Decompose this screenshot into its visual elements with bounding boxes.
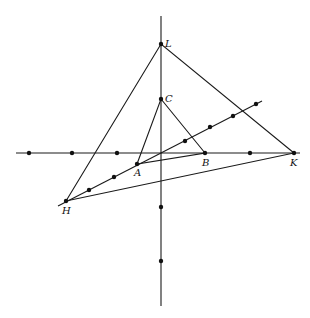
label-l: L — [164, 38, 172, 49]
dot — [27, 151, 31, 155]
dot — [115, 151, 119, 155]
dot — [112, 175, 116, 179]
triangle-abc — [137, 99, 205, 164]
dot — [159, 259, 163, 263]
label-c: C — [165, 93, 173, 104]
dot — [159, 205, 163, 209]
point-k — [292, 151, 296, 155]
dot — [248, 151, 252, 155]
label-k: K — [289, 157, 298, 168]
point-a — [135, 162, 139, 166]
point-h — [64, 199, 68, 203]
point-l — [159, 42, 163, 46]
dot — [70, 151, 74, 155]
point-b — [203, 151, 207, 155]
dot — [208, 125, 212, 129]
dot — [183, 139, 187, 143]
point-c — [159, 97, 163, 101]
dot — [231, 114, 235, 118]
dot — [87, 188, 91, 192]
label-b: B — [201, 157, 209, 168]
geometry-diagram: L C A B K H — [0, 0, 310, 318]
label-a: A — [133, 167, 141, 178]
label-h: H — [61, 205, 71, 216]
dot — [254, 102, 258, 106]
